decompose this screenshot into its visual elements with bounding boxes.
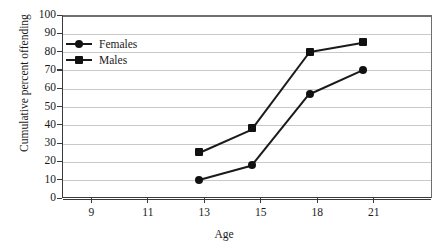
x-axis-tick-mark [373,198,374,203]
data-point-marker [359,38,367,46]
x-axis-tick-label: 13 [184,206,224,218]
y-axis-tick-label: 80 [22,46,56,58]
y-axis-tick-label: 20 [22,155,56,167]
x-axis-tick-label: 9 [71,206,111,218]
y-axis-tick-label: 0 [22,192,56,204]
y-axis-tick-label: 40 [22,119,56,131]
series-line-segment [310,42,363,53]
data-point-marker [248,161,256,169]
x-axis-tick-label: 18 [297,206,337,218]
chart-figure: Cumulative percent offending 01020304050… [0,0,448,250]
x-axis-tick-mark [204,198,205,203]
legend-label: Males [99,53,127,68]
gridline [63,199,431,200]
x-axis-tick-label: 21 [354,206,394,218]
series-line-segment [198,164,252,180]
series-line-segment [198,128,252,153]
x-axis-tick-mark [317,198,318,203]
square-marker-icon [75,56,83,64]
y-axis-tick-label: 10 [22,174,56,186]
x-axis-title: Age [0,228,448,240]
x-axis-tick-mark [147,198,148,203]
data-point-marker [195,148,203,156]
data-point-marker [248,124,256,132]
data-point-marker [306,90,314,98]
y-axis-tick-label: 90 [22,27,56,39]
x-axis-tick-label: 15 [241,206,281,218]
data-point-marker [195,176,203,184]
circle-marker-icon [75,40,83,48]
legend-label: Females [99,37,137,52]
series-line-segment [309,69,362,94]
x-axis-tick-mark [91,198,92,203]
y-axis-tick-label: 50 [22,101,56,113]
y-axis-tick-label: 70 [22,64,56,76]
series-line-segment [252,93,311,165]
data-point-marker [306,48,314,56]
y-axis-tick-label: 100 [22,9,56,21]
x-axis-tick-label: 11 [128,206,168,218]
x-axis-tick-mark [260,198,261,203]
data-point-marker [359,66,367,74]
y-axis-tick-label: 60 [22,82,56,94]
series-line-segment [252,51,311,129]
y-axis-tick-label: 30 [22,137,56,149]
